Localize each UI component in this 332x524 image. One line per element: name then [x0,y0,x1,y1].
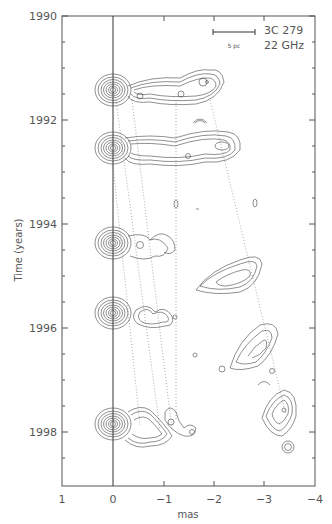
scale-bar-label: 5 pc [228,42,241,50]
x-tick-label: 0 [110,493,117,506]
y-tick-label: 1996 [29,322,57,335]
y-tick-label: 1994 [29,218,57,231]
epoch-1991 [95,70,224,123]
y-tick-label: 1998 [29,426,57,439]
y-tick-label: 1992 [29,114,57,127]
x-tick-label: −2 [206,493,222,506]
epoch-1996 [95,297,278,385]
contour-plot: 1990 1992 1994 1996 1998 1 0 −1 −2 −3 −4… [0,0,332,524]
component-tracks [113,100,286,430]
x-tick-label: −1 [156,493,172,506]
epoch-1995 [95,227,262,294]
epoch-1998 [95,390,296,453]
x-axis-label: mas [177,509,198,520]
source-label: 3C 279 [264,24,303,37]
x-ticks [164,16,264,486]
x-tick-label: −3 [256,493,272,506]
y-axis-label: Time (years) [13,218,24,282]
plot-frame [62,16,315,486]
y-tick-label: 1990 [29,10,57,23]
frequency-label: 22 GHz [264,39,304,52]
x-tick-label: −4 [307,493,323,506]
x-tick-label: 1 [59,493,66,506]
